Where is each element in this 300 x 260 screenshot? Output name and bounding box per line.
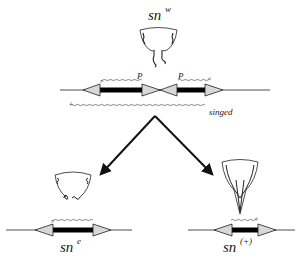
top-allele-label: sn bbox=[148, 7, 161, 24]
top-gene-construct bbox=[60, 84, 270, 96]
p-element-label-right: P bbox=[178, 71, 184, 81]
sne-gene-construct bbox=[6, 224, 132, 236]
straight-bristle-icon bbox=[222, 160, 258, 215]
diagram-canvas bbox=[0, 0, 300, 260]
wavy-bristle-icon bbox=[140, 28, 177, 68]
branch-arrows bbox=[101, 116, 212, 174]
allele-base: sn bbox=[223, 239, 236, 255]
left-element-ltr-left bbox=[83, 84, 100, 96]
left-element-ltr-right bbox=[142, 84, 160, 96]
left-allele-label: sn bbox=[60, 239, 73, 256]
allele-base: sn bbox=[60, 239, 73, 255]
snplus-transcript-wavy bbox=[231, 219, 257, 220]
p-transcript-left-wavy bbox=[101, 79, 142, 80]
singed-transcript-wavy bbox=[70, 104, 205, 105]
p-element-label-left: P bbox=[137, 71, 143, 81]
right-element-ltr-left bbox=[160, 84, 177, 96]
snplus-gene-construct bbox=[188, 224, 295, 236]
curled-bristle-icon bbox=[55, 172, 91, 199]
right-allele-label: sn bbox=[223, 239, 236, 256]
sne-transcript-wavy bbox=[52, 219, 93, 220]
singed-transcript-label: singed bbox=[209, 107, 233, 117]
right-element-ltr-right bbox=[205, 84, 223, 96]
top-allele-superscript: w bbox=[165, 4, 171, 14]
right-allele-superscript: (+) bbox=[240, 236, 252, 246]
allele-base: sn bbox=[148, 7, 161, 23]
left-allele-superscript: e bbox=[77, 236, 81, 246]
